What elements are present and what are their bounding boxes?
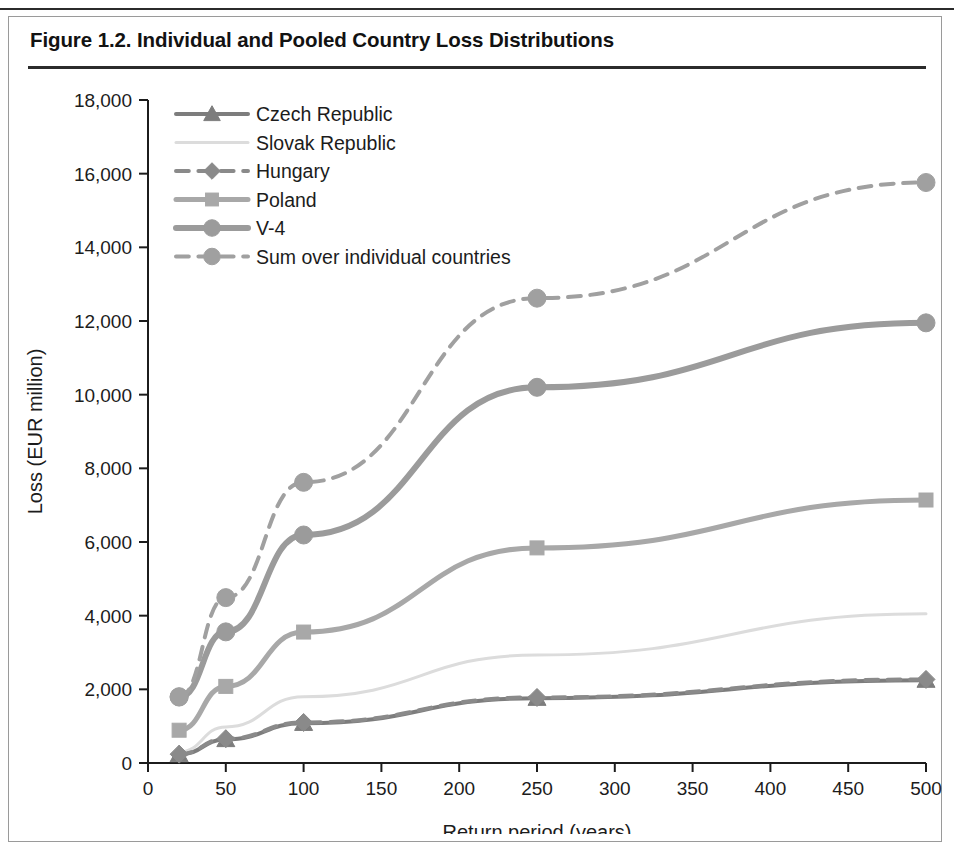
series-czech-republic: [170, 671, 935, 762]
data-point-marker: [172, 723, 186, 737]
figure-title: Figure 1.2. Individual and Pooled Countr…: [30, 28, 614, 52]
figure-container: Figure 1.2. Individual and Pooled Countr…: [0, 0, 954, 850]
legend-swatch-marker: [204, 220, 221, 237]
data-point-marker: [217, 589, 235, 607]
x-axis-tick-label: 50: [215, 778, 236, 799]
page-top-rule: [0, 8, 954, 10]
y-axis-tick-label: 16,000: [74, 164, 132, 185]
x-axis-tick-label: 500: [910, 778, 942, 799]
chart-area: 02,0004,0006,0008,00010,00012,00014,0001…: [0, 74, 954, 834]
x-axis-tick-label: 300: [599, 778, 631, 799]
legend-label: Czech Republic: [256, 103, 393, 125]
y-axis-tick-label: 4,000: [84, 606, 132, 627]
y-axis-tick-label: 2,000: [84, 679, 132, 700]
x-axis-tick-label: 0: [143, 778, 154, 799]
data-point-marker: [217, 623, 235, 641]
x-axis-tick-label: 250: [521, 778, 553, 799]
data-point-marker: [170, 688, 188, 706]
legend-swatch-marker: [206, 193, 219, 206]
chart-legend: Czech RepublicSlovak RepublicHungaryPola…: [176, 103, 511, 268]
title-underline-rule: [28, 66, 926, 69]
data-point-marker: [917, 174, 935, 192]
y-axis-tick-label: 12,000: [74, 311, 132, 332]
x-axis-title: Return period (years): [443, 821, 632, 834]
y-axis-tick-label: 10,000: [74, 385, 132, 406]
data-point-marker: [295, 473, 313, 491]
legend-label: V-4: [256, 217, 285, 239]
data-point-marker: [919, 493, 933, 507]
legend-label: Sum over individual countries: [256, 246, 511, 268]
y-axis-tick-label: 18,000: [74, 90, 132, 111]
legend-label: Slovak Republic: [256, 132, 396, 154]
data-point-marker: [528, 289, 546, 307]
x-axis-tick-label: 150: [366, 778, 398, 799]
legend-swatch-marker: [204, 163, 221, 180]
data-point-marker: [530, 541, 544, 555]
legend-swatch-marker: [204, 248, 221, 265]
x-axis-tick-label: 100: [288, 778, 320, 799]
y-axis-tick-label: 6,000: [84, 532, 132, 553]
x-axis-tick-label: 350: [677, 778, 709, 799]
legend-label: Hungary: [256, 160, 330, 182]
series-v-4: [170, 314, 935, 706]
data-point-marker: [528, 378, 546, 396]
x-axis-tick-label: 400: [755, 778, 787, 799]
data-point-marker: [297, 625, 311, 639]
y-axis: 02,0004,0006,0008,00010,00012,00014,0001…: [74, 90, 148, 774]
data-point-marker: [917, 314, 935, 332]
x-axis-tick-label: 200: [443, 778, 475, 799]
data-point-marker: [219, 679, 233, 693]
data-point-marker: [295, 526, 313, 544]
x-axis-tick-label: 450: [832, 778, 864, 799]
legend-label: Poland: [256, 189, 317, 211]
y-axis-tick-label: 0: [121, 753, 132, 774]
y-axis-tick-label: 8,000: [84, 458, 132, 479]
loss-distribution-line-chart: 02,0004,0006,0008,00010,00012,00014,0001…: [0, 74, 954, 834]
y-axis-title: Loss (EUR million): [24, 349, 46, 515]
x-axis: 050100150200250300350400450500: [143, 763, 942, 799]
y-axis-tick-label: 14,000: [74, 237, 132, 258]
